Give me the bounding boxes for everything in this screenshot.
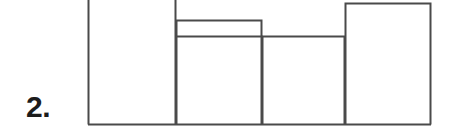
figure-container: 2. (0, 0, 453, 136)
chart-bars (89, 0, 431, 125)
bar-1-outline (89, 0, 176, 125)
bar-4-outline (346, 4, 431, 125)
bar-3-outline (263, 37, 345, 125)
bar-chart-graphic (0, 0, 453, 136)
